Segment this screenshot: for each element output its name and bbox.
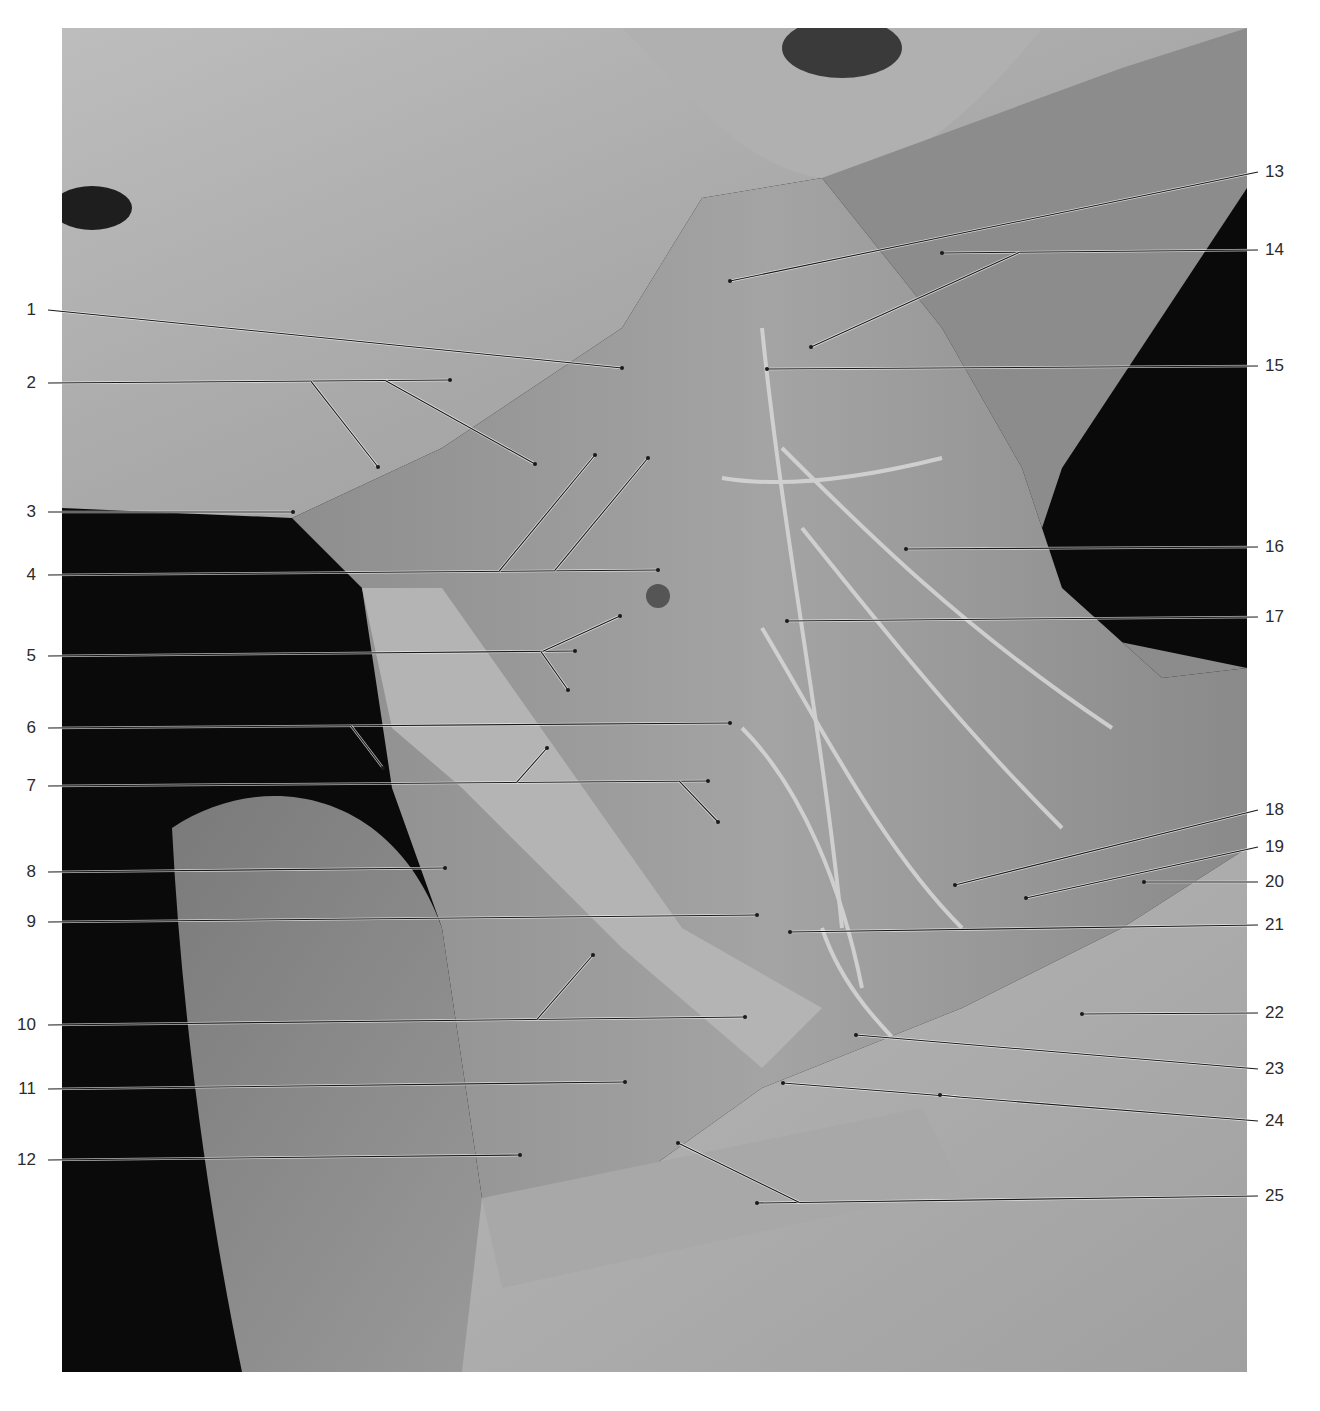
label-20: 20: [1265, 872, 1295, 892]
leader-target-dot: [646, 456, 650, 460]
label-12: 12: [10, 1150, 36, 1170]
leader-line: [48, 781, 708, 786]
leader-target-dot: [291, 510, 295, 514]
leader-line: [48, 723, 730, 728]
leader-target-dot: [623, 1080, 627, 1084]
label-6: 6: [10, 718, 36, 738]
leader-target-dot: [743, 1015, 747, 1019]
leader-line: [856, 1035, 1258, 1069]
leader-line: [48, 570, 658, 575]
leader-target-dot: [1142, 880, 1146, 884]
leader-target-dot: [518, 1153, 522, 1157]
label-3: 3: [10, 502, 36, 522]
leader-line: [517, 748, 547, 782]
leader-target-dot: [676, 1141, 680, 1145]
leader-line: [790, 925, 1258, 932]
label-13: 13: [1265, 162, 1295, 182]
leader-target-dot: [953, 883, 957, 887]
leader-line: [351, 726, 383, 768]
leader-target-dot: [716, 820, 720, 824]
leader-line: [385, 380, 535, 464]
leader-target-dot: [593, 453, 597, 457]
leader-line: [955, 810, 1258, 885]
leader-target-dot: [765, 367, 769, 371]
leader-target-dot: [381, 766, 385, 770]
label-7: 7: [10, 776, 36, 796]
leader-line: [543, 616, 620, 651]
leader-target-dot: [785, 619, 789, 623]
leader-line: [537, 955, 593, 1019]
label-17: 17: [1265, 607, 1295, 627]
leader-target-dot: [443, 866, 447, 870]
leader-line: [311, 381, 378, 467]
leader-target-dot: [728, 721, 732, 725]
leader-target-dot: [728, 279, 732, 283]
label-18: 18: [1265, 800, 1295, 820]
label-16: 16: [1265, 537, 1295, 557]
label-8: 8: [10, 862, 36, 882]
leader-lines: [0, 0, 1320, 1411]
label-24: 24: [1265, 1111, 1295, 1131]
leader-line: [811, 252, 1020, 347]
leader-target-dot: [448, 378, 452, 382]
leader-line: [787, 617, 1258, 621]
leader-target-dot: [940, 251, 944, 255]
label-19: 19: [1265, 837, 1295, 857]
leader-line: [541, 651, 568, 690]
leader-target-dot: [755, 1201, 759, 1205]
leader-target-dot: [545, 746, 549, 750]
leader-line: [783, 1083, 1258, 1121]
label-4: 4: [10, 565, 36, 585]
leader-line: [1026, 847, 1258, 898]
leader-target-dot: [656, 568, 660, 572]
leader-target-dot: [591, 953, 595, 957]
label-10: 10: [10, 1015, 36, 1035]
leader-line: [48, 868, 445, 872]
leader-target-dot: [566, 688, 570, 692]
leader-target-dot: [938, 1093, 942, 1097]
leader-target-dot: [755, 913, 759, 917]
leader-target-dot: [376, 465, 380, 469]
anatomy-figure: 123456789101112 131415161718192021222324…: [0, 0, 1320, 1411]
leader-line: [48, 651, 575, 656]
leader-line: [757, 1196, 1258, 1203]
leader-line: [499, 455, 595, 571]
leader-target-dot: [809, 345, 813, 349]
leader-target-dot: [573, 649, 577, 653]
label-2: 2: [10, 373, 36, 393]
label-9: 9: [10, 912, 36, 932]
leader-target-dot: [904, 547, 908, 551]
leader-line: [679, 781, 718, 822]
label-14: 14: [1265, 240, 1295, 260]
leader-line: [48, 1155, 520, 1160]
leader-target-dot: [781, 1081, 785, 1085]
label-21: 21: [1265, 915, 1295, 935]
leader-line: [554, 458, 648, 571]
leader-target-dot: [533, 462, 537, 466]
leader-target-dot: [618, 614, 622, 618]
label-5: 5: [10, 646, 36, 666]
label-25: 25: [1265, 1186, 1295, 1206]
leader-target-dot: [1024, 896, 1028, 900]
label-11: 11: [10, 1079, 36, 1099]
leader-target-dot: [706, 779, 710, 783]
leader-line: [48, 310, 622, 368]
label-15: 15: [1265, 356, 1295, 376]
leader-target-dot: [1080, 1012, 1084, 1016]
leader-target-dot: [620, 366, 624, 370]
leader-line: [678, 1143, 799, 1202]
leader-line: [48, 915, 757, 922]
leader-line: [48, 1082, 625, 1089]
label-22: 22: [1265, 1003, 1295, 1023]
label-1: 1: [10, 300, 36, 320]
leader-line: [48, 1017, 745, 1025]
leader-target-dot: [854, 1033, 858, 1037]
leader-target-dot: [788, 930, 792, 934]
label-23: 23: [1265, 1059, 1295, 1079]
